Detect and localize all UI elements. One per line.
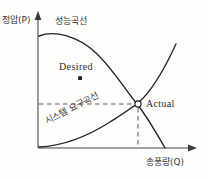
performance-curve [39, 34, 165, 148]
chart-canvas [0, 0, 208, 179]
performance-curve-label: 성능곡선 [55, 17, 87, 26]
fan-performance-chart: 정압(P) 성능곡선 Desired Actual 시스템 요구곡선 송풍량(Q… [0, 0, 208, 179]
y-axis-arrow-icon [35, 11, 42, 20]
y-axis-label: 정압(P) [2, 16, 30, 25]
x-axis-arrow-icon [188, 145, 197, 152]
actual-point-label: Actual [146, 99, 174, 109]
axis-group [35, 11, 197, 151]
actual-point-marker [135, 101, 141, 107]
x-axis-label: 송풍량(Q) [146, 158, 184, 167]
desired-point-label: Desired [59, 62, 93, 72]
desired-point-marker [78, 76, 82, 80]
